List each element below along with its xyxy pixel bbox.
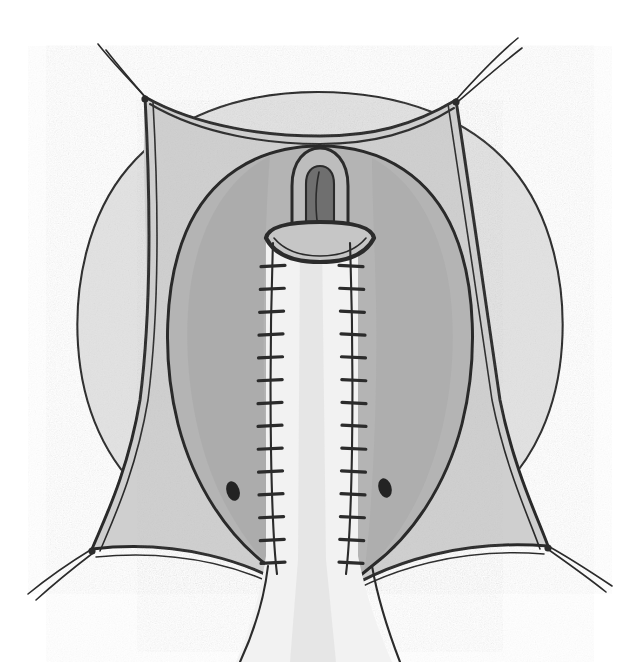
suture-stitch bbox=[342, 380, 366, 381]
suture-stitch bbox=[340, 288, 364, 289]
suture-stitch bbox=[260, 539, 284, 540]
suture-stitch bbox=[260, 517, 284, 518]
suture-stitch bbox=[259, 334, 283, 335]
suture-stitch bbox=[259, 471, 283, 472]
suture-stitch bbox=[260, 311, 284, 312]
suture-stitch bbox=[340, 539, 364, 540]
surgical-illustration-svg bbox=[0, 0, 641, 662]
suture-stitch bbox=[342, 402, 366, 403]
suture-stitch bbox=[341, 334, 365, 335]
suture-stitch bbox=[258, 380, 282, 381]
suture-stitch bbox=[341, 357, 365, 358]
suture-stitch bbox=[259, 357, 283, 358]
illustration-canvas: Surgical field illustration bbox=[0, 0, 641, 662]
suture-stitch bbox=[339, 562, 363, 563]
traction-suture-top-right-knot bbox=[452, 98, 459, 105]
suture-stitch bbox=[259, 494, 283, 495]
suture-stitch bbox=[261, 265, 285, 266]
suture-stitch bbox=[261, 562, 285, 563]
suture-stitch bbox=[341, 471, 365, 472]
suture-stitch bbox=[342, 425, 366, 426]
suture-stitch bbox=[258, 402, 282, 403]
suture-stitch bbox=[260, 288, 284, 289]
suture-stitch bbox=[258, 448, 282, 449]
traction-suture-bottom-left-knot bbox=[88, 547, 95, 554]
suture-stitch bbox=[340, 311, 364, 312]
suture-stitch bbox=[258, 425, 282, 426]
traction-suture-top-left-knot bbox=[141, 95, 148, 102]
suture-stitch bbox=[339, 265, 363, 266]
suture-stitch bbox=[341, 494, 365, 495]
suture-stitch bbox=[342, 448, 366, 449]
traction-suture-bottom-right-knot bbox=[544, 544, 551, 551]
suture-stitch bbox=[340, 517, 364, 518]
